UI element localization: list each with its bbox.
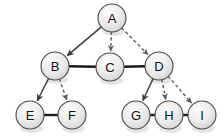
node-circle-e bbox=[16, 101, 44, 129]
node-g[interactable]: G bbox=[122, 101, 150, 129]
node-circle-h bbox=[155, 101, 183, 129]
edge-a-c bbox=[111, 31, 112, 51]
node-circle-f bbox=[58, 101, 86, 129]
node-circle-a bbox=[98, 4, 126, 32]
node-circle-c bbox=[96, 53, 124, 81]
node-circle-g bbox=[122, 101, 150, 129]
node-a[interactable]: A bbox=[98, 4, 126, 32]
node-shadow-layer bbox=[20, 27, 215, 132]
node-f[interactable]: F bbox=[58, 101, 86, 129]
edge-b-e bbox=[37, 78, 49, 101]
node-c[interactable]: C bbox=[96, 53, 124, 81]
node-circle-i bbox=[188, 101, 216, 129]
edge-a-b bbox=[67, 27, 101, 56]
node-e[interactable]: E bbox=[16, 101, 44, 129]
node-layer: ABCDEFGHI bbox=[16, 4, 216, 129]
edge-a-d bbox=[121, 28, 147, 55]
edge-d-g bbox=[143, 78, 153, 100]
edge-b-c bbox=[68, 66, 96, 67]
node-i[interactable]: I bbox=[188, 101, 216, 129]
node-circle-d bbox=[145, 52, 173, 80]
node-circle-b bbox=[41, 52, 69, 80]
graph-svg: ABCDEFGHI bbox=[0, 0, 224, 136]
node-b[interactable]: B bbox=[41, 52, 69, 80]
node-d[interactable]: D bbox=[145, 52, 173, 80]
diagram-canvas: ABCDEFGHI bbox=[0, 0, 224, 136]
node-h[interactable]: H bbox=[155, 101, 183, 129]
